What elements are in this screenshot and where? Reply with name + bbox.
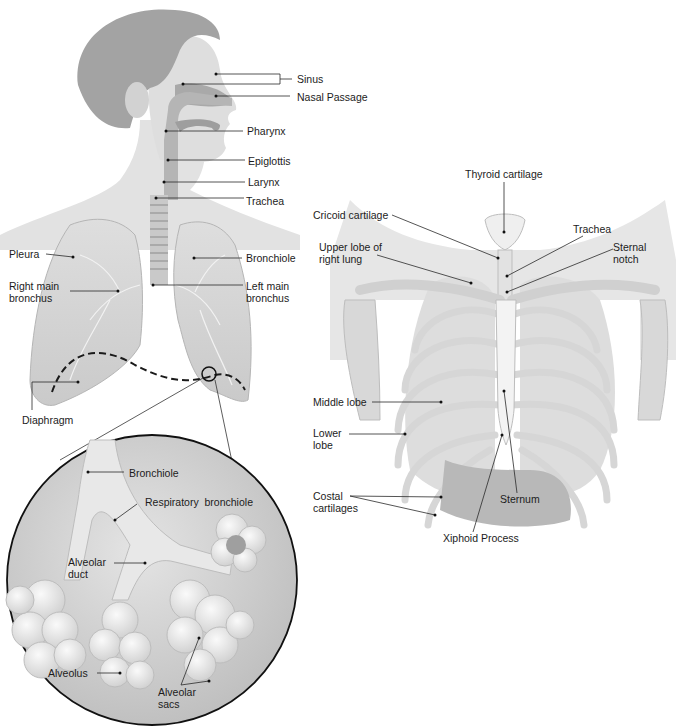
label-trachea-head: Trachea — [246, 195, 284, 207]
head-silhouette — [0, 9, 300, 285]
respiratory-system-diagram: Sinus Nasal Passage Pharynx Epiglottis L… — [0, 0, 676, 727]
label-costal-cartilages: Costal cartilages — [313, 490, 365, 514]
label-lower-lobe: Lower lobe — [313, 427, 349, 451]
label-larynx: Larynx — [248, 176, 280, 188]
label-pleura: Pleura — [9, 248, 39, 260]
label-respiratory-bronchiole: Respiratory bronchiole — [145, 496, 253, 508]
label-epiglottis: Epiglottis — [248, 155, 291, 167]
label-upper-lobe-right-lung: Upper lobe of right lung — [319, 241, 389, 265]
label-alveolar-duct: Alveolar duct — [68, 556, 116, 580]
label-bronchiole-magnified: Bronchiole — [129, 467, 179, 479]
anatomy-illustration — [0, 0, 676, 727]
label-left-main-bronchus: Left main bronchus — [246, 280, 306, 304]
label-xiphoid-process: Xiphoid Process — [443, 532, 519, 544]
label-middle-lobe: Middle lobe — [313, 396, 367, 408]
label-nasal-passage: Nasal Passage — [297, 91, 368, 103]
label-pharynx: Pharynx — [247, 125, 286, 137]
label-alveolar-sacs: Alveolar sacs — [158, 686, 202, 710]
label-right-main-bronchus: Right main bronchus — [9, 280, 71, 304]
label-sinus: Sinus — [297, 73, 323, 85]
label-thyroid-cartilage: Thyroid cartilage — [465, 168, 543, 180]
label-alveolus: Alveolus — [48, 667, 88, 679]
label-sternal-notch: Sternal notch — [613, 241, 657, 265]
label-sternum: Sternum — [500, 493, 540, 505]
label-bronchiole: Bronchiole — [246, 252, 296, 264]
label-diaphragm: Diaphragm — [22, 414, 73, 426]
label-cricoid-cartilage: Cricoid cartilage — [313, 209, 388, 221]
label-trachea-thorax: Trachea — [573, 223, 611, 235]
